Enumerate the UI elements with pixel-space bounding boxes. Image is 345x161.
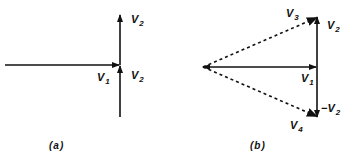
label-v3-b: V3 [286,8,299,22]
vector-v3-dashed [203,18,316,67]
label-v2-bottom-a: V2 [131,70,144,84]
label-v2-b: V2 [327,20,340,34]
label-v4-b: V4 [290,120,303,134]
panel-a [5,15,120,117]
panel-b [203,17,317,117]
caption-b: (b) [250,140,266,151]
caption-a: (a) [49,140,64,151]
vector-diagram [0,0,345,161]
label-v1-a: V1 [97,72,110,86]
vector-v4-dashed [203,67,316,116]
label-v1-b: V1 [301,73,314,87]
label-v2-top-a: V2 [131,14,144,28]
label-neg-v2-b: −V2 [321,103,340,117]
